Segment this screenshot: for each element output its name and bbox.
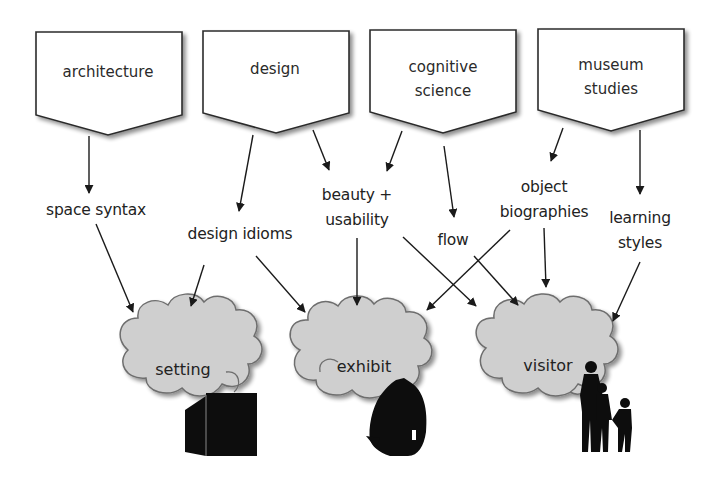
discipline-label-line: cognitive	[409, 55, 478, 79]
discipline-label-museum-studies: museum studies	[578, 53, 643, 101]
concept-label-line: object	[500, 175, 589, 200]
concept-label-line: biographies	[500, 200, 589, 225]
discipline-label-line: museum	[578, 53, 643, 77]
discipline-box-design	[203, 31, 349, 133]
concept-learning-styles: learning styles	[609, 206, 671, 256]
cube-icon	[185, 393, 257, 456]
cloud-setting	[120, 294, 262, 396]
concept-label-line: styles	[609, 231, 671, 256]
arrow-museum-studies-object-biographies	[551, 128, 563, 161]
arrow-design-idioms-exhibit	[256, 256, 305, 312]
discipline-label-design: design	[250, 57, 300, 81]
concept-design-idioms: design idioms	[188, 222, 293, 247]
target-visitor: visitor	[523, 356, 572, 375]
concept-label-line: learning	[609, 206, 671, 231]
target-setting: setting	[155, 360, 210, 379]
concept-beauty-usability: beauty + usability	[322, 183, 392, 233]
discipline-label-line: studies	[578, 77, 643, 101]
concept-label-line: beauty +	[322, 183, 392, 208]
concept-flow: flow	[437, 228, 468, 253]
target-exhibit: exhibit	[337, 357, 392, 376]
discipline-label-architecture: architecture	[63, 60, 154, 84]
arrow-object-biographies-visitor	[544, 228, 546, 287]
arrow-design-design-idioms	[239, 135, 253, 211]
arrow-design-beauty-usability	[313, 130, 329, 170]
concept-object-biographies: object biographies	[500, 175, 589, 225]
arrow-flow-visitor	[474, 256, 518, 305]
arrow-learning-styles-visitor	[613, 262, 640, 321]
concept-label-line: usability	[322, 208, 392, 233]
family-silhouette-icon	[580, 361, 632, 452]
concept-space-syntax: space syntax	[46, 198, 146, 223]
discipline-label-cognitive-science: cognitive science	[409, 55, 478, 103]
discipline-label-line: science	[409, 79, 478, 103]
arrow-cognitive-science-flow	[444, 146, 454, 217]
arrow-space-syntax-setting	[96, 224, 133, 312]
arrow-cognitive-science-beauty-usability	[387, 131, 402, 171]
